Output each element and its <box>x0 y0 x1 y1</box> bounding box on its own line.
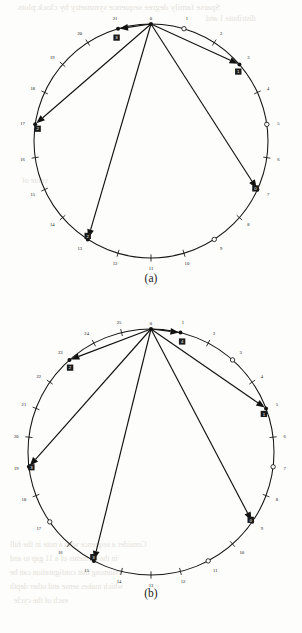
tick-label: 1 <box>182 320 185 325</box>
arrow-label-badge: 3 <box>90 554 96 560</box>
figure-caption-a: (a) <box>0 272 302 284</box>
tick-label: 20 <box>14 434 19 439</box>
tick-label: 14 <box>50 222 55 227</box>
open-marker <box>182 27 186 31</box>
tick-label: 21 <box>22 402 27 407</box>
filled-marker <box>237 62 241 66</box>
tick-mark <box>47 380 53 384</box>
tick-label: 24 <box>84 331 89 336</box>
open-marker <box>206 559 210 563</box>
arrow-shaft <box>43 24 151 118</box>
tick-label: 3 <box>247 55 250 60</box>
arrow <box>151 329 252 521</box>
tick-label: 4 <box>261 374 264 379</box>
tick-label: 16 <box>20 157 25 162</box>
arrow-label-badge: 2 <box>85 233 91 239</box>
tick-mark <box>263 157 270 158</box>
filled-marker <box>67 358 71 362</box>
tick-mark <box>25 437 32 438</box>
figure-panel-a: 012345678910111213141516171819202131022 … <box>0 0 302 310</box>
arrow <box>151 329 265 408</box>
tick-label: 11 <box>149 266 154 271</box>
tick-label: 13 <box>77 246 82 251</box>
tick-mark <box>32 157 39 158</box>
clock-diagram-b: 0123456789101112131415161718192021222324… <box>0 300 302 600</box>
tick-label: 10 <box>240 550 245 555</box>
arrow-shaft <box>151 329 258 403</box>
tick-label: 14 <box>117 579 122 584</box>
tick-label: 17 <box>20 121 25 126</box>
tick-label: 21 <box>113 16 118 21</box>
tick-label: 15 <box>84 568 89 573</box>
arrow-label-badge: 0 <box>252 185 258 191</box>
tick-label: 22 <box>37 374 42 379</box>
clock-diagram-a: 012345678910111213141516171819202131022 <box>0 0 302 285</box>
tick-mark <box>86 40 90 46</box>
tick-label: 9 <box>261 526 264 531</box>
arrow-label-badge: 3 <box>113 35 119 41</box>
tick-label: 8 <box>276 497 279 502</box>
tick-label: 19 <box>50 55 55 60</box>
arrow-label-badge: 1 <box>261 411 267 417</box>
arrow-label-badge: 1 <box>235 68 241 74</box>
arrow-label-badge: 0 <box>248 517 254 523</box>
tick-label: 0 <box>150 321 153 326</box>
tick-mark <box>92 340 95 346</box>
open-marker <box>212 237 216 241</box>
arrow-shaft <box>36 329 151 459</box>
open-marker <box>265 122 269 126</box>
open-marker <box>230 358 234 362</box>
tick-mark <box>206 340 209 346</box>
figure-panel-b: 0123456789101112131415161718192021222324… <box>0 300 302 633</box>
tick-label: 8 <box>247 222 250 227</box>
tick-label: 20 <box>77 31 82 36</box>
tick-label: 3 <box>240 350 243 355</box>
arrow-label-badge: 2 <box>34 126 40 132</box>
tick-mark <box>270 437 277 438</box>
tick-label: 12 <box>181 579 186 584</box>
arrow <box>30 329 151 466</box>
arrow <box>71 329 151 360</box>
tick-label: 0 <box>150 16 153 21</box>
arrow-head <box>120 24 129 31</box>
arrow <box>87 24 151 238</box>
arrow-shaft <box>91 24 151 230</box>
open-marker <box>271 465 275 469</box>
arrow <box>93 329 151 559</box>
arrow-shaft <box>79 329 151 356</box>
tick-label: 9 <box>220 246 223 251</box>
tick-label: 17 <box>37 526 42 531</box>
tick-label: 2 <box>220 31 223 36</box>
tick-label: 6 <box>277 157 280 162</box>
tick-label: 2 <box>213 331 216 336</box>
tick-label: 6 <box>284 434 287 439</box>
arrow-label-badge: 2 <box>67 365 73 371</box>
tick-label: 7 <box>284 466 287 471</box>
tick-label: 19 <box>14 466 19 471</box>
filled-marker <box>116 27 120 31</box>
arrow-label-badge: 4 <box>179 338 185 344</box>
tick-label: 10 <box>185 261 190 266</box>
arrow-label-badge: 3 <box>28 464 34 470</box>
tick-label: 18 <box>22 497 27 502</box>
tick-label: 4 <box>267 86 270 91</box>
tick-label: 16 <box>58 550 63 555</box>
arrow-shaft <box>151 329 248 513</box>
tick-label: 18 <box>30 86 35 91</box>
tick-label: 23 <box>58 350 63 355</box>
filled-marker <box>178 331 182 335</box>
tick-label: 15 <box>30 192 35 197</box>
tick-label: 11 <box>213 568 218 573</box>
tick-label: 12 <box>113 261 118 266</box>
open-marker <box>48 520 52 524</box>
tick-label: 7 <box>267 192 270 197</box>
tick-mark <box>212 40 216 46</box>
arrow-shaft <box>96 329 151 551</box>
tick-label: 1 <box>186 16 189 21</box>
tick-label: 5 <box>277 121 280 126</box>
tick-label: 5 <box>276 402 279 407</box>
tick-mark <box>249 380 255 384</box>
diagram-circle <box>28 329 274 575</box>
figure-caption-b: (b) <box>0 587 302 599</box>
filled-marker <box>264 406 268 410</box>
